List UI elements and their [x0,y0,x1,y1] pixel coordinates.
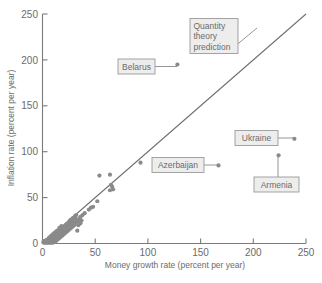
data-point [87,207,91,211]
data-point [43,239,47,243]
x-tick-label-100: 100 [140,247,157,258]
y-tick-label-50: 50 [27,192,39,203]
data-point [95,199,99,203]
callout-belarus[interactable]: Belarus [118,59,155,74]
callout-quantity-theory-prediction[interactable]: Quantity theory prediction [190,19,238,54]
callout-azerbaijan[interactable]: Azerbaijan [152,158,204,173]
scatter-chart: 0 50 100 150 200 250 0 50 100 150 200 25… [0,0,322,283]
y-tick-label-100: 100 [21,146,38,157]
callout-armenia[interactable]: Armenia [254,177,299,192]
data-point [53,230,57,234]
y-tick-label-0: 0 [32,238,38,249]
data-point [73,217,77,221]
plot-canvas: 0 50 100 150 200 250 0 50 100 150 200 25… [0,0,322,283]
x-tick-label-50: 50 [90,247,102,258]
data-point [59,224,63,228]
data-point-armenia [277,153,281,157]
callout-quantity-line2: theory [194,31,218,41]
callout-quantity-line3: prediction [194,42,231,52]
data-point [108,173,112,177]
x-tick-label-200: 200 [245,247,262,258]
data-point-ukraine [292,137,296,141]
y-tick-label-150: 150 [21,100,38,111]
callout-azerbaijan-label: Azerbaijan [158,160,198,170]
callout-armenia-label: Armenia [261,180,293,190]
data-point [138,161,142,165]
data-point [65,227,69,231]
x-tick-label-0: 0 [40,247,46,258]
callout-ukraine-label: Ukraine [242,133,272,143]
y-tick-label-250: 250 [21,9,38,20]
y-tick-label-200: 200 [21,55,38,66]
x-tick-label-150: 150 [192,247,209,258]
data-point [91,205,95,209]
data-point [97,173,101,177]
x-tick-label-250: 250 [298,247,315,258]
data-point [79,218,83,222]
x-axis-title: Money growth rate (percent per year) [105,260,245,270]
callout-quantity-line1: Quantity [194,21,226,31]
data-point-belarus [175,62,179,66]
callout-belarus-label: Belarus [122,62,151,72]
data-point [111,187,115,191]
data-point-azerbaijan [216,163,220,167]
callout-ukraine[interactable]: Ukraine [235,131,278,146]
data-point [75,229,79,233]
y-axis-title: Inflation rate (percent per year) [6,69,16,186]
